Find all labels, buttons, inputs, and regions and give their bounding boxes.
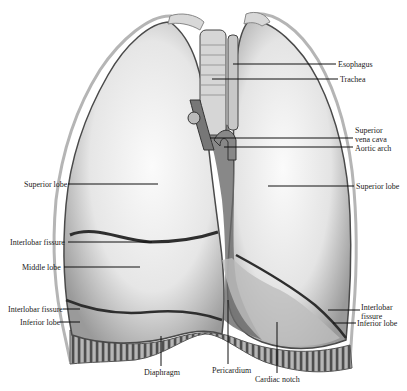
label-diaphragm: Diaphragm — [144, 368, 180, 377]
label-middle-lobe: Middle lobe — [22, 263, 61, 272]
label-pericardium: Pericardium — [212, 366, 251, 375]
label-superior-lobe-left: Superior lobe — [24, 180, 67, 189]
label-esophagus: Esophagus — [338, 60, 373, 69]
label-interlobar-fissure-left-lower: Interlobar fissure — [8, 305, 63, 314]
leader-lines — [0, 0, 407, 391]
label-inferior-lobe-left: Inferior lobe — [20, 318, 60, 327]
lung-anatomy-figure: EsophagusTracheaSuperior vena cavaAortic… — [0, 0, 407, 391]
label-trachea: Trachea — [340, 75, 365, 84]
label-cardiac-notch: Cardiac notch — [255, 375, 300, 384]
label-superior-lobe-right: Superior lobe — [356, 182, 399, 191]
label-interlobar-fissure-left-upper: Interlobar fissure — [10, 238, 65, 247]
label-superior-vena-cava: Superior vena cava — [355, 126, 387, 144]
label-aortic-arch: Aortic arch — [355, 144, 391, 153]
label-inferior-lobe-right: Inferior lobe — [357, 319, 397, 328]
